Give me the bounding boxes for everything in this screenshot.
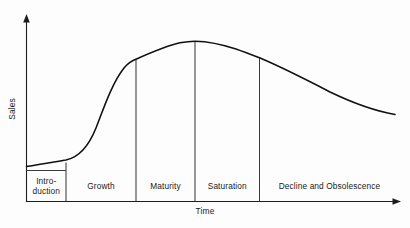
product-life-cycle-chart: Intro- duction Growth Maturity Saturatio… [0,0,410,228]
y-axis-arrow-icon [23,14,30,23]
y-axis-title: Sales [7,85,17,133]
chart-canvas [0,0,410,228]
sales-curve-path [27,41,396,166]
x-axis-arrow-icon [393,198,402,205]
x-axis-title: Time [0,206,410,216]
